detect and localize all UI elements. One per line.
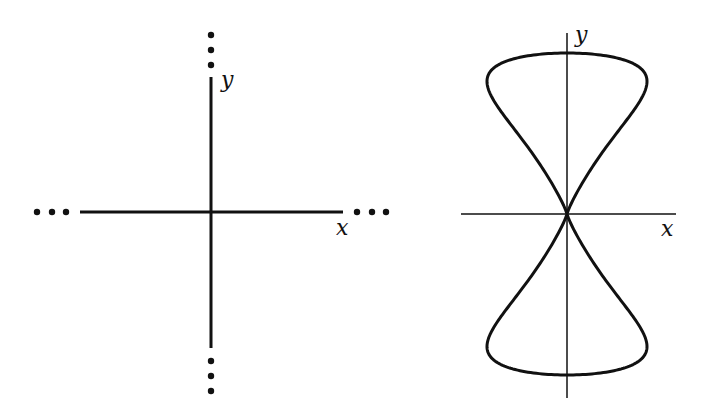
left-x-left-dots: [34, 209, 69, 215]
right-figure-eight: y x: [461, 22, 676, 398]
right-y-label: y: [574, 22, 588, 47]
left-y-top-dots: [208, 32, 214, 68]
left-y-bottom-dots: [208, 358, 214, 394]
left-y-label: y: [220, 67, 234, 92]
diagram-canvas: y x y x: [0, 0, 711, 413]
left-axes-figure: y x: [34, 32, 389, 394]
left-x-right-dots: [354, 209, 389, 215]
left-x-label: x: [336, 215, 349, 240]
right-x-label: x: [661, 216, 674, 241]
